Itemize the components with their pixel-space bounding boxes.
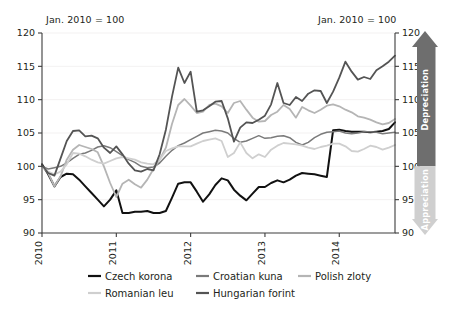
y-tick-label-right: 90	[402, 227, 414, 238]
y-tick-label-left: 115	[17, 61, 35, 72]
legend-label-romanian-leu[interactable]: Romanian leu	[105, 288, 174, 299]
legend-label-czech-korona[interactable]: Czech korona	[105, 271, 172, 282]
y-tick-label-left: 105	[17, 127, 35, 138]
y-tick-label-left: 100	[17, 161, 35, 172]
y-tick-label-left: 95	[23, 194, 35, 205]
series-line-croatian-kuna	[42, 130, 395, 169]
chart-legend: Czech koronaCroatian kunaPolish zlotyRom…	[88, 271, 371, 299]
y-tick-label-left: 120	[17, 27, 35, 38]
note-label-left: Jan. 2010 = 100	[46, 14, 125, 25]
series-line-romanian-leu	[42, 138, 395, 174]
legend-label-polish-zloty[interactable]: Polish zloty	[315, 271, 371, 282]
y-tick-label-left: 110	[17, 94, 35, 105]
y-tick-label-left: 90	[23, 227, 35, 238]
series-line-hungarian-forint	[42, 56, 395, 176]
x-tick-label-2012: 2012	[182, 241, 193, 265]
x-tick-label-2010: 2010	[33, 241, 44, 265]
legend-label-croatian-kuna[interactable]: Croatian kuna	[213, 271, 283, 282]
appreciation-label: Appreciation	[420, 169, 430, 230]
y-tick-label-right: 95	[402, 194, 414, 205]
x-tick-label-2014: 2014	[330, 241, 341, 265]
x-tick-label-2013: 2013	[256, 241, 267, 265]
x-tick-label-2011: 2011	[107, 241, 118, 265]
depreciation-label: Depreciation	[420, 69, 430, 131]
y-tick-label-right: 120	[402, 27, 420, 38]
grid-lines	[42, 33, 395, 200]
legend-label-hungarian-forint[interactable]: Hungarian forint	[213, 288, 295, 299]
data-series-group	[42, 56, 395, 213]
note-label-right: Jan. 2010 = 100	[318, 14, 397, 25]
y-axis-left-ticks: 9095100105110115120	[17, 27, 42, 238]
exchange-rate-chart: Jan. 2010 = 100 Jan. 2010 = 100 90951001…	[0, 0, 461, 310]
x-axis-ticks: 20102011201220132014	[33, 233, 341, 265]
chart-canvas: 9095100105110115120 9095100105110115120 …	[0, 0, 461, 310]
